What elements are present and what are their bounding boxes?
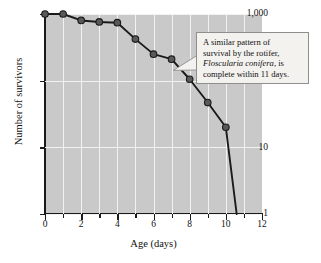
x-axis-tick-minor xyxy=(135,214,136,218)
y-axis-title: Number of survivors xyxy=(13,32,24,172)
x-axis-tick-minor xyxy=(208,214,209,218)
x-axis-tick-label: 12 xyxy=(250,219,274,229)
x-axis-tick-label: 4 xyxy=(105,219,129,229)
y-axis-tick xyxy=(40,147,45,148)
x-axis-tick-label: 2 xyxy=(69,219,93,229)
x-axis-tick-minor xyxy=(99,214,100,218)
x-axis-tick-minor xyxy=(172,214,173,218)
x-axis-tick-label: 0 xyxy=(33,219,57,229)
x-axis-tick-label: 10 xyxy=(214,219,238,229)
y-axis-tick-label: 1,000 xyxy=(247,9,268,19)
callout-line-2: survival by the rotifer, xyxy=(203,48,280,58)
y-axis-tick-label: 1 xyxy=(263,209,268,219)
x-axis-title: Age (days) xyxy=(45,238,262,249)
callout-annotation: A similar pattern of survival by the rot… xyxy=(196,32,309,84)
callout-line-4: complete within 11 days. xyxy=(203,69,289,79)
x-axis-tick-label: 8 xyxy=(178,219,202,229)
survivorship-curve-figure: 1101001,000024681012 Number of survivors… xyxy=(0,0,321,263)
callout-line-1: A similar pattern of xyxy=(203,37,270,47)
y-axis-tick-label: 10 xyxy=(259,143,269,153)
callout-line-3-tail: , is xyxy=(274,58,284,68)
x-axis-tick-minor xyxy=(244,214,245,218)
y-axis-tick xyxy=(40,81,45,82)
x-axis-tick-label: 6 xyxy=(142,219,166,229)
x-axis-tick-minor xyxy=(63,214,64,218)
y-axis-tick xyxy=(40,14,45,15)
callout-species-name: Floscularia conifera xyxy=(203,58,274,68)
